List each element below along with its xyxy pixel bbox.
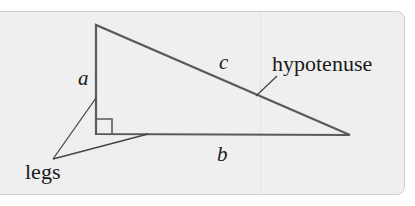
triangle [96, 25, 350, 135]
label-c: c [219, 52, 228, 73]
right-triangle-figure [0, 0, 415, 206]
label-hypotenuse: hypotenuse [272, 53, 372, 75]
right-angle-marker [96, 119, 112, 134]
hypotenuse-pointer [256, 76, 277, 96]
label-b: b [217, 144, 228, 165]
label-a: a [78, 68, 89, 89]
label-legs: legs [25, 161, 60, 183]
